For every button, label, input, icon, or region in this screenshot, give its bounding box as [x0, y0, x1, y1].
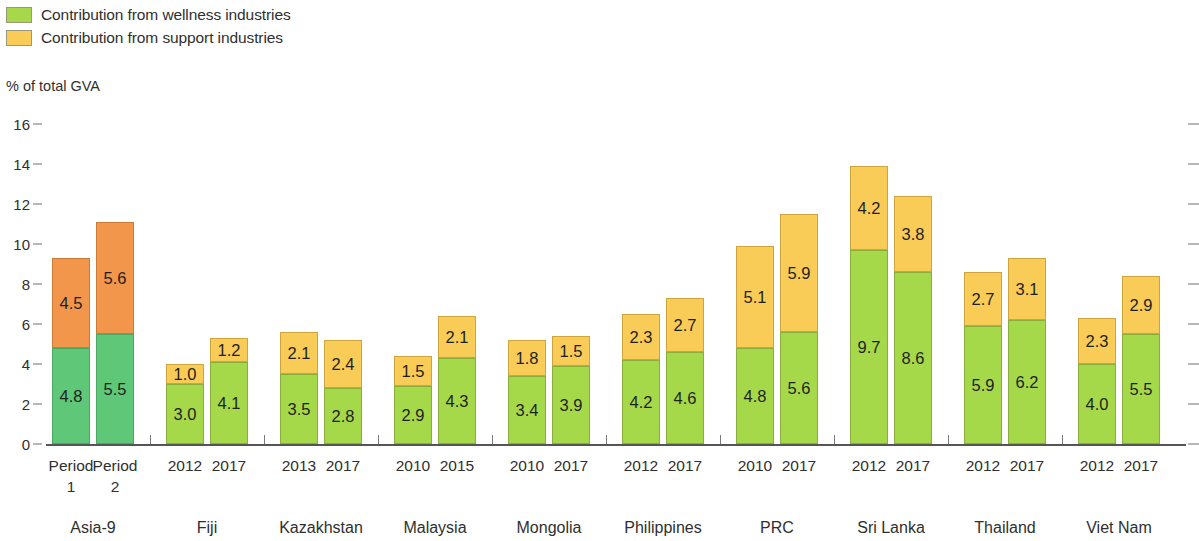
bar-segment-support[interactable]: 2.7	[964, 272, 1002, 326]
bar-segment-support[interactable]: 2.4	[324, 340, 362, 388]
bar-segment-support[interactable]: 1.2	[210, 338, 248, 362]
bar-value-wellness: 3.5	[288, 401, 311, 418]
bar-sri-lanka-2017[interactable]: 3.88.6	[894, 196, 932, 444]
y-axis-tick-label: 16	[2, 116, 30, 133]
y-axis-tick-mark-right	[1188, 124, 1199, 125]
bar-segment-wellness[interactable]: 5.5	[1122, 334, 1160, 444]
bar-segment-support[interactable]: 3.1	[1008, 258, 1046, 320]
bar-mongolia-2017[interactable]: 1.53.9	[552, 336, 590, 444]
bar-segment-wellness[interactable]: 4.2	[622, 360, 660, 444]
y-axis-tick-label: 4	[2, 356, 30, 373]
y-axis-tick-label: 6	[2, 316, 30, 333]
bar-segment-wellness[interactable]: 4.8	[52, 348, 90, 444]
bar-value-wellness: 8.6	[902, 350, 925, 367]
bar-malaysia-2015[interactable]: 2.14.3	[438, 316, 476, 444]
bar-value-wellness: 5.6	[788, 380, 811, 397]
bar-philippines-2017[interactable]: 2.74.6	[666, 298, 704, 444]
bar-segment-support[interactable]: 4.5	[52, 258, 90, 348]
bar-value-support: 2.3	[630, 329, 653, 346]
bar-segment-support[interactable]: 4.2	[850, 166, 888, 250]
bar-segment-wellness[interactable]: 5.5	[96, 334, 134, 444]
y-axis-tick-mark-right	[1188, 444, 1199, 445]
x-axis-group-separator-tick	[606, 435, 607, 444]
bar-segment-support[interactable]: 2.1	[280, 332, 318, 374]
bar-viet-nam-2012[interactable]: 2.34.0	[1078, 318, 1116, 444]
x-axis-group-separator-tick	[150, 435, 151, 444]
bar-viet-nam-2017[interactable]: 2.95.5	[1122, 276, 1160, 444]
bar-segment-support[interactable]: 5.6	[96, 222, 134, 334]
bar-segment-wellness[interactable]: 3.0	[166, 384, 204, 444]
y-axis-tick-label: 8	[2, 276, 30, 293]
y-axis-tick-mark	[33, 164, 42, 165]
bar-fiji-2012[interactable]: 1.03.0	[166, 364, 204, 444]
bar-kazakhstan-2013[interactable]: 2.13.5	[280, 332, 318, 444]
bar-segment-support[interactable]: 5.9	[780, 214, 818, 332]
bar-asia-9-period-1[interactable]: 4.54.8	[52, 258, 90, 444]
bar-segment-support[interactable]: 2.7	[666, 298, 704, 352]
bar-value-support: 2.1	[288, 345, 311, 362]
bar-segment-wellness[interactable]: 4.3	[438, 358, 476, 444]
bar-thailand-2017[interactable]: 3.16.2	[1008, 258, 1046, 444]
x-axis-bar-label: 2017	[880, 456, 946, 477]
bar-segment-support[interactable]: 3.8	[894, 196, 932, 272]
bar-mongolia-2010[interactable]: 1.83.4	[508, 340, 546, 444]
bar-value-support: 4.2	[858, 200, 881, 217]
bar-value-wellness: 9.7	[858, 339, 881, 356]
bar-segment-support[interactable]: 5.1	[736, 246, 774, 348]
bar-value-support: 2.7	[972, 291, 995, 308]
bar-segment-support[interactable]: 2.3	[622, 314, 660, 360]
y-axis-tick-mark-right	[1188, 284, 1199, 285]
bar-prc-2017[interactable]: 5.95.6	[780, 214, 818, 444]
bar-segment-wellness[interactable]: 4.1	[210, 362, 248, 444]
bar-segment-support[interactable]: 1.5	[394, 356, 432, 386]
bar-segment-wellness[interactable]: 8.6	[894, 272, 932, 444]
bar-segment-wellness[interactable]: 3.5	[280, 374, 318, 444]
bar-value-wellness: 4.3	[446, 393, 469, 410]
y-axis-tick-mark-right	[1188, 204, 1199, 205]
bar-segment-wellness[interactable]: 4.6	[666, 352, 704, 444]
y-axis-tick-mark	[33, 444, 42, 445]
bar-segment-wellness[interactable]: 9.7	[850, 250, 888, 444]
bar-segment-wellness[interactable]: 3.9	[552, 366, 590, 444]
x-axis-bar-label: 2017	[310, 456, 376, 477]
bar-prc-2010[interactable]: 5.14.8	[736, 246, 774, 444]
bar-segment-support[interactable]: 2.3	[1078, 318, 1116, 364]
bar-segment-support[interactable]: 2.1	[438, 316, 476, 358]
bar-asia-9-period-2[interactable]: 5.65.5	[96, 222, 134, 444]
bar-segment-wellness[interactable]: 4.8	[736, 348, 774, 444]
bar-value-wellness: 4.8	[744, 388, 767, 405]
bar-thailand-2012[interactable]: 2.75.9	[964, 272, 1002, 444]
bar-fiji-2017[interactable]: 1.24.1	[210, 338, 248, 444]
bar-segment-wellness[interactable]: 2.9	[394, 386, 432, 444]
bar-segment-wellness[interactable]: 6.2	[1008, 320, 1046, 444]
x-axis-group-separator-tick	[264, 435, 265, 444]
bar-value-support: 1.5	[402, 363, 425, 380]
bar-value-support: 5.1	[744, 289, 767, 306]
bar-segment-support[interactable]: 2.9	[1122, 276, 1160, 334]
bar-malaysia-2010[interactable]: 1.52.9	[394, 356, 432, 444]
bar-segment-support[interactable]: 1.8	[508, 340, 546, 376]
y-axis-tick-mark	[33, 364, 42, 365]
bar-kazakhstan-2017[interactable]: 2.42.8	[324, 340, 362, 444]
y-axis-tick-mark	[33, 284, 42, 285]
x-axis-bar-label: 2017	[652, 456, 718, 477]
bar-segment-wellness[interactable]: 2.8	[324, 388, 362, 444]
bar-segment-wellness[interactable]: 5.9	[964, 326, 1002, 444]
y-axis-tick-mark-right	[1188, 324, 1199, 325]
bar-value-support: 4.5	[60, 295, 83, 312]
bar-value-wellness: 3.4	[516, 402, 539, 419]
bar-segment-wellness[interactable]: 4.0	[1078, 364, 1116, 444]
bar-segment-support[interactable]: 1.5	[552, 336, 590, 366]
x-axis-bar-label: Period 2	[82, 456, 148, 498]
y-axis-tick-mark	[33, 124, 42, 125]
y-axis-tick-mark	[33, 244, 42, 245]
bar-sri-lanka-2012[interactable]: 4.29.7	[850, 166, 888, 444]
bar-philippines-2012[interactable]: 2.34.2	[622, 314, 660, 444]
bar-segment-wellness[interactable]: 5.6	[780, 332, 818, 444]
bar-value-support: 1.5	[560, 343, 583, 360]
y-axis-tick-label: 0	[2, 436, 30, 453]
bar-value-wellness: 4.2	[630, 394, 653, 411]
bar-segment-support[interactable]: 1.0	[166, 364, 204, 384]
bar-segment-wellness[interactable]: 3.4	[508, 376, 546, 444]
bar-value-support: 1.0	[174, 366, 197, 383]
